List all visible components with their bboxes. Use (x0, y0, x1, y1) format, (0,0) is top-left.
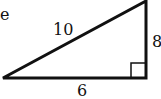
vertical-leg-label: 8 (152, 32, 161, 51)
hypotenuse-label: 10 (53, 20, 73, 39)
horizontal-leg-label: 6 (77, 81, 87, 99)
partial-text: e (0, 5, 9, 24)
right-triangle (3, 1, 146, 78)
triangle-diagram: e 10 8 6 (0, 0, 161, 99)
right-angle-marker (131, 63, 146, 78)
